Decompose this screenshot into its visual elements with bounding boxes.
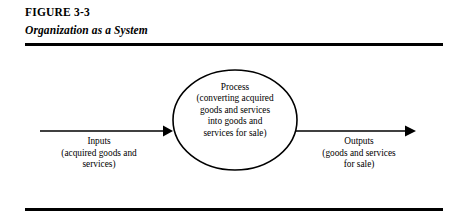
outputs-label-line: for sale) (286, 159, 432, 171)
outputs-label-line: (goods and services (286, 148, 432, 160)
inputs-label: Inputs (acquired goods and services) (26, 136, 172, 171)
process-label-line: goods and services (172, 105, 298, 116)
process-label-line: services for sale) (172, 128, 298, 139)
process-label-line: (converting acquired (172, 93, 298, 104)
process-label-line: Process (172, 82, 298, 93)
inputs-label-line: Inputs (26, 136, 172, 148)
inputs-label-line: services) (26, 159, 172, 171)
process-label-line: into goods and (172, 116, 298, 127)
input-arrow (40, 126, 173, 137)
inputs-label-line: (acquired goods and (26, 148, 172, 160)
footer-divider-rule (25, 208, 443, 211)
outputs-label-line: Outputs (286, 136, 432, 148)
output-arrow-head (405, 126, 416, 137)
outputs-label: Outputs (goods and services for sale) (286, 136, 432, 171)
process-label: Process (converting acquired goods and s… (172, 82, 298, 139)
figure-container: FIGURE 3-3 Organization as a System Proc… (0, 0, 468, 222)
output-arrow (296, 126, 416, 137)
